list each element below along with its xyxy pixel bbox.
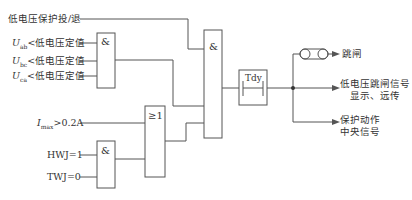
central-signal-output: 保护动作 中央信号 <box>340 114 380 138</box>
uab-text: <低电压定值 <box>27 37 85 48</box>
and-gate-main-symbol: & <box>209 41 218 52</box>
central-line1: 保护动作 <box>340 114 380 126</box>
trip-output-label: 跳闸 <box>342 48 362 59</box>
or-gate-symbol: ≥1 <box>148 110 163 121</box>
uca-text: <低电压定值 <box>27 70 85 81</box>
ubc-label: Ubc<低电压定值 <box>12 55 85 70</box>
ubc-text: <低电压定值 <box>27 55 85 66</box>
uab-symbol: U <box>12 37 20 48</box>
hwj-label: HWJ=1 <box>47 149 83 160</box>
ubc-symbol: U <box>12 55 20 66</box>
uca-subscript: ca <box>20 76 27 83</box>
central-line2: 中央信号 <box>340 126 380 138</box>
and-gate-voltage-symbol: & <box>101 36 110 47</box>
twj-label: TWJ=0 <box>47 171 81 182</box>
undervoltage-signal-output: 低电压跳闸信号 显示、远传 <box>340 78 410 102</box>
signal-line2: 显示、远传 <box>340 90 410 102</box>
enable-label: 低电压保护投/退 <box>8 13 81 24</box>
imax-label: Imax>0.2A <box>37 117 83 132</box>
imax-subscript: max <box>41 123 54 130</box>
uca-label: Uca<低电压定值 <box>12 70 85 85</box>
and-gate-breaker-symbol: & <box>101 145 110 156</box>
uab-label: Uab<低电压定值 <box>12 37 85 52</box>
signal-line1: 低电压跳闸信号 <box>340 78 410 90</box>
uca-symbol: U <box>12 70 20 81</box>
timer-label: Tdy <box>245 73 262 83</box>
imax-text: >0.2A <box>53 117 83 128</box>
